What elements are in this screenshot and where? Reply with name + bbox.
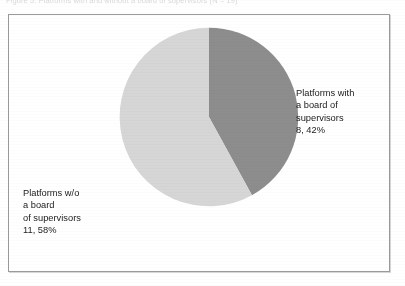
figure-caption: Figure 5. Platforms with and without a b… — [6, 0, 398, 6]
pie-label-with-board: Platforms with a board of supervisors 8,… — [296, 87, 394, 137]
pie-chart — [116, 24, 302, 210]
pie-svg — [116, 24, 302, 210]
figure-frame: Platforms with a board of supervisors 8,… — [8, 14, 390, 272]
pie-label-without-board: Platforms w/o a board of supervisors 11,… — [23, 187, 133, 237]
